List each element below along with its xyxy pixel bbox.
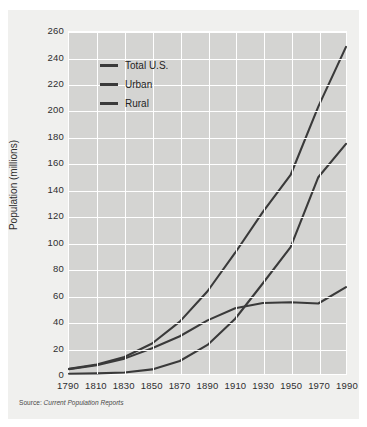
y-axis-tick-label: 20: [36, 344, 64, 354]
y-axis-tick-label: 260: [36, 26, 64, 36]
gridline-vertical: [236, 32, 237, 374]
gridline-vertical: [320, 32, 321, 374]
y-axis-title: Population (millions): [8, 140, 19, 230]
y-axis-tick-label: 220: [36, 79, 64, 89]
y-axis-tick-label: 60: [36, 291, 64, 301]
y-axis-tick-label: 40: [36, 317, 64, 327]
gridline-horizontal: [69, 270, 346, 271]
gridline-vertical: [97, 32, 98, 374]
y-axis-tick-label: 180: [36, 132, 64, 142]
gridline-horizontal: [69, 138, 346, 139]
legend-item: Rural: [100, 94, 218, 113]
legend-swatch-icon: [100, 64, 118, 66]
x-axis-tick-labels: 1790181018301850187018901910193019501970…: [68, 380, 347, 394]
legend-label: Rural: [125, 98, 149, 109]
gridline-horizontal: [69, 323, 346, 324]
legend-swatch-icon: [100, 102, 118, 104]
gridline-horizontal: [69, 164, 346, 165]
gridline-horizontal: [69, 32, 346, 33]
gridline-horizontal: [69, 244, 346, 245]
legend-label: Total U.S.: [125, 60, 168, 71]
x-axis-tick-label: 1990: [327, 380, 367, 391]
y-axis-tick-label: 80: [36, 264, 64, 274]
gridline-vertical: [292, 32, 293, 374]
y-axis-tick-label: 200: [36, 105, 64, 115]
gridline-horizontal: [69, 297, 346, 298]
chart-legend: Total U.S.UrbanRural: [100, 56, 218, 113]
source-note: Source: Current Population Reports: [19, 399, 123, 406]
legend-item: Total U.S.: [100, 56, 218, 75]
y-axis-tick-labels: 020406080100120140160180200220240260: [32, 31, 64, 375]
gridline-horizontal: [69, 191, 346, 192]
y-axis-tick-label: 160: [36, 158, 64, 168]
y-axis-tick-label: 0: [36, 370, 64, 380]
legend-swatch-icon: [100, 83, 118, 85]
gridline-horizontal: [69, 350, 346, 351]
y-axis-tick-label: 120: [36, 211, 64, 221]
gridline-horizontal: [69, 217, 346, 218]
source-text: Current Population Reports: [44, 399, 124, 406]
population-chart-figure: 020406080100120140160180200220240260 Pop…: [0, 0, 367, 427]
legend-item: Urban: [100, 75, 218, 94]
source-label: Source:: [19, 399, 42, 406]
series-line-urban: [69, 144, 346, 374]
y-axis-tick-label: 100: [36, 238, 64, 248]
y-axis-tick-label: 140: [36, 185, 64, 195]
series-line-rural: [69, 287, 346, 369]
legend-label: Urban: [125, 79, 152, 90]
gridline-vertical: [264, 32, 265, 374]
y-axis-tick-label: 240: [36, 53, 64, 63]
